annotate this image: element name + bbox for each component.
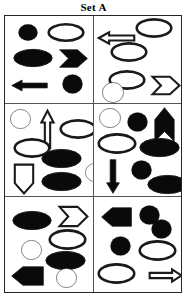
arrow-down-black [103, 159, 123, 194]
shape-grid [4, 15, 182, 293]
stadium-white [48, 24, 84, 41]
page-title: Set A [0, 0, 187, 14]
circle-white [56, 268, 77, 288]
cell-4 [94, 104, 181, 196]
arrow-left-black [11, 77, 48, 94]
circle-black [151, 219, 172, 239]
pennant-right-white [152, 76, 180, 95]
circle-white [21, 240, 42, 260]
cell-3 [5, 104, 93, 196]
stadium-white [98, 134, 136, 153]
stadium-black [139, 138, 180, 157]
pennant-left-black [11, 266, 44, 286]
circle-white [102, 82, 124, 103]
pennant-up-black [154, 107, 175, 142]
circle-black [62, 74, 83, 94]
stadium-black [41, 149, 82, 168]
pennant-right-black [59, 49, 88, 68]
circle-white [99, 108, 121, 128]
stadium-white [136, 19, 172, 37]
cell-6 [94, 197, 181, 292]
pennant-down-white [14, 164, 34, 194]
stadium-black [12, 211, 52, 230]
stadium-black [147, 175, 181, 194]
arrow-right-white [149, 266, 181, 285]
pennant-left-black [101, 207, 132, 227]
puzzle-figure: Set A [0, 0, 187, 298]
circle-black [110, 236, 131, 256]
stadium-black [41, 172, 82, 191]
cell-1 [5, 16, 93, 103]
stadium-white [49, 230, 86, 249]
stadium-black [13, 49, 53, 67]
circle-black [127, 112, 148, 132]
circle-white [10, 109, 31, 129]
pennant-right-white [59, 206, 88, 227]
stadium-white [111, 43, 147, 61]
cell-5 [5, 197, 93, 292]
stadium-white [60, 120, 93, 138]
cell-2 [94, 16, 181, 103]
stadium-white [98, 264, 135, 283]
circle-white [85, 163, 93, 182]
circle-black [18, 24, 38, 41]
stadium-white [139, 241, 176, 260]
